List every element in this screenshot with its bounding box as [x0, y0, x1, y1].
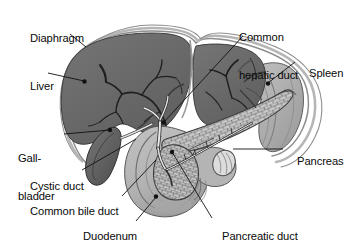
label-pancreas: Pancreas — [285, 143, 344, 180]
label-liver: Liver — [18, 68, 54, 105]
label-text-pancreas: Pancreas — [297, 155, 343, 167]
label-text-pancreatic-duct: Pancreatic duct — [222, 230, 298, 242]
label-common-hepatic-duct: Common hepatic duct — [239, 6, 298, 107]
label-text-duodenum: Duodenum — [83, 230, 137, 242]
anatomy-figure: Diaphragm Liver Gall- bladder Cystic duc… — [0, 0, 347, 244]
label-text-common-hepatic-duct-line1: Common — [239, 31, 298, 44]
label-text-spleen: Spleen — [309, 67, 343, 79]
label-pancreatic-duct: Pancreatic duct — [210, 218, 298, 244]
label-duodenum: Duodenum — [71, 218, 137, 244]
label-text-diaphragm: Diaphragm — [30, 32, 84, 44]
label-text-cystic-duct: Cystic duct — [30, 180, 84, 192]
label-text-common-hepatic-duct-line2: hepatic duct — [239, 69, 298, 82]
label-spleen: Spleen — [297, 55, 343, 92]
label-text-liver: Liver — [30, 80, 54, 92]
label-text-gallbladder-line1: Gall- — [18, 152, 55, 165]
jejunum-cut-end — [192, 147, 239, 202]
label-diaphragm: Diaphragm — [18, 20, 84, 57]
label-text-common-bile-duct: Common bile duct — [30, 205, 119, 217]
